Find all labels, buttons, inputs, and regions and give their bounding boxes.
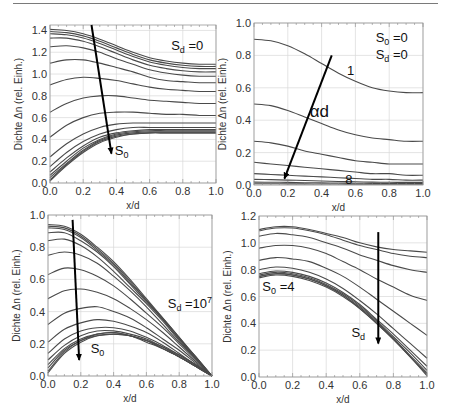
x-tick-label: 0.4: [106, 378, 121, 390]
x-tick-label: 0.6: [352, 379, 367, 391]
figure-canvas: 0.00.20.40.60.81.00.00.20.40.60.81.01.21…: [0, 0, 450, 419]
y-tick-label: 0.6: [236, 82, 251, 94]
x-tick-label: 1.0: [204, 378, 219, 390]
data-curve: [50, 130, 216, 173]
y-tick-label: 0.2: [236, 147, 251, 159]
chart-top-left: 0.00.20.40.60.81.00.00.20.40.60.81.01.21…: [13, 24, 224, 211]
y-tick-label: 0.0: [32, 177, 47, 189]
data-curves: [259, 226, 427, 375]
x-tick-label: 1.0: [415, 187, 430, 199]
x-axis-label: x/d: [123, 393, 136, 404]
y-tick-label: 0.2: [30, 338, 45, 350]
x-tick-label: 0.4: [109, 185, 124, 197]
data-curve: [254, 104, 423, 141]
y-tick-label: 0.8: [241, 264, 256, 276]
x-tick-label: 0.6: [142, 185, 157, 197]
x-tick-label: 0.8: [386, 379, 401, 391]
y-tick-label: 0.4: [32, 133, 47, 145]
y-axis-label: Dichte Δn (rel. Einh.): [11, 249, 22, 341]
x-tick-label: 0.2: [285, 379, 300, 391]
x-tick-label: 0.2: [76, 185, 91, 197]
y-tick-label: 0.8: [236, 49, 251, 61]
x-tick-label: 0.8: [175, 185, 190, 197]
y-tick-label: 0.0: [241, 371, 256, 383]
x-tick-label: 1.0: [419, 379, 434, 391]
data-curve: [48, 330, 212, 376]
x-tick-label: 0.4: [314, 187, 329, 199]
y-tick-label: 0.4: [236, 114, 251, 126]
annotation-label: Sd =107: [168, 295, 212, 313]
y-tick-label: 0.4: [30, 306, 45, 318]
y-tick-label: 0.4: [241, 317, 256, 329]
y-tick-label: 0.2: [32, 155, 47, 167]
annotation-label: Sd =0: [376, 47, 408, 64]
y-tick-label: 1.0: [236, 17, 251, 29]
y-axis-label: Dichte Δn (rel. Einh.): [217, 58, 228, 150]
y-tick-label: 0.8: [32, 90, 47, 102]
y-tick-label: 0.2: [241, 344, 256, 356]
y-tick-label: 1.0: [30, 209, 45, 221]
annotation-label: αd: [310, 102, 329, 121]
chart-bottom-right: 0.00.20.40.60.81.00.00.20.40.60.81.01.2x…: [222, 210, 435, 405]
x-tick-label: 0.8: [382, 187, 397, 199]
annotation-label: S0 =0: [376, 30, 408, 47]
x-tick-label: 0.8: [172, 378, 187, 390]
annotation-label: Sd: [351, 325, 365, 342]
y-tick-label: 1.0: [241, 237, 256, 249]
y-tick-label: 1.4: [32, 24, 47, 36]
x-tick-label: 0.4: [319, 379, 334, 391]
data-curve: [259, 233, 427, 272]
x-tick-label: 0.2: [280, 187, 295, 199]
annotation-label: 1: [347, 63, 354, 78]
y-tick-label: 0.8: [30, 241, 45, 253]
y-tick-label: 0.6: [32, 112, 47, 124]
y-tick-label: 0.6: [241, 291, 256, 303]
chart-top-right: 0.00.20.40.60.81.00.00.20.40.60.81.0x/dD…: [217, 17, 431, 213]
y-tick-label: 0.0: [236, 179, 251, 191]
annotation-label: S0: [115, 143, 129, 160]
x-tick-label: 1.0: [208, 185, 223, 197]
data-curve: [50, 96, 216, 113]
annotation-label: S0 =4: [262, 279, 294, 296]
annotation-label: 8: [345, 172, 352, 187]
y-tick-label: 1.2: [241, 210, 256, 222]
y-tick-label: 1.0: [32, 68, 47, 80]
y-tick-label: 0.6: [30, 273, 45, 285]
x-tick-label: 0.6: [139, 378, 154, 390]
x-axis-label: x/d: [126, 200, 139, 211]
y-axis-label: Dichte Δn (rel. Einh.): [222, 250, 233, 342]
data-curve: [50, 77, 216, 91]
chart-bottom-left: 0.00.20.40.60.81.00.00.20.40.60.81.0x/dD…: [11, 209, 220, 404]
data-curve: [48, 252, 212, 376]
y-tick-label: 0.0: [30, 370, 45, 382]
x-axis-label: x/d: [336, 394, 349, 405]
data-curve: [48, 307, 212, 376]
x-axis-label: x/d: [332, 202, 345, 213]
data-curve: [50, 131, 216, 176]
x-tick-label: 0.6: [348, 187, 363, 199]
y-axis-label: Dichte Δn (rel. Einh.): [13, 58, 24, 150]
y-tick-label: 1.2: [32, 46, 47, 58]
annotation-label: Sd =0: [171, 38, 203, 55]
x-tick-label: 0.2: [73, 378, 88, 390]
